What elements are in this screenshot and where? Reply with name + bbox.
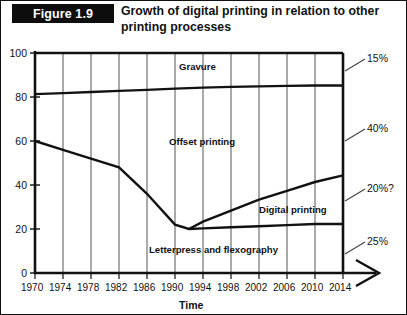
series-label-digital: Digital printing: [259, 204, 327, 215]
x-tick-label-2010: 2010: [301, 282, 323, 293]
annotation-percent-gravure: 15%: [367, 52, 388, 64]
x-tick-label-1974: 1974: [49, 282, 71, 293]
figure-number-badge: Figure 1.9: [12, 4, 114, 23]
y-tick-label-40: 40: [1, 179, 27, 191]
figure-title: Growth of digital printing in relation t…: [121, 4, 399, 35]
x-tick-label-1978: 1978: [77, 282, 99, 293]
chart-plot-area: 100 80 60 40 20 0 1970 1974 1978 1982 19…: [1, 41, 407, 315]
x-tick-label-1990: 1990: [161, 282, 183, 293]
chart-svg: [1, 41, 407, 315]
x-tick-label-2014: 2014: [329, 282, 351, 293]
y-tick-label-20: 20: [1, 223, 27, 235]
annotation-leader-lines: [345, 59, 365, 254]
annotation-percent-digital: 20%?: [367, 182, 394, 194]
annotation-percent-offset: 40%: [367, 122, 388, 134]
x-tick-label-1970: 1970: [21, 282, 43, 293]
figure-header: Figure 1.9 Growth of digital printing in…: [1, 1, 407, 41]
x-tick-label-1982: 1982: [105, 282, 127, 293]
x-tick-label-1998: 1998: [217, 282, 239, 293]
x-tick-label-1994: 1994: [189, 282, 211, 293]
y-tick-label-100: 100: [1, 47, 27, 59]
x-tick-label-2006: 2006: [273, 282, 295, 293]
series-line-gravure: [35, 86, 343, 95]
y-tick-label-80: 80: [1, 91, 27, 103]
series-line-digital: [189, 175, 343, 229]
x-axis-title: Time: [179, 299, 203, 311]
series-label-letterpress: Letterpress and flexography: [149, 244, 278, 255]
y-tick-label-0: 0: [1, 267, 27, 279]
x-tick-label-1986: 1986: [133, 282, 155, 293]
annotation-percent-letterpress: 25%: [367, 235, 388, 247]
x-tick-label-2002: 2002: [245, 282, 267, 293]
series-label-gravure: Gravure: [179, 61, 216, 72]
series-line-letterpress: [35, 141, 343, 229]
series-label-offset: Offset printing: [169, 136, 235, 147]
y-axis: [30, 51, 40, 274]
figure-container: Figure 1.9 Growth of digital printing in…: [0, 0, 407, 315]
y-tick-label-60: 60: [1, 135, 27, 147]
